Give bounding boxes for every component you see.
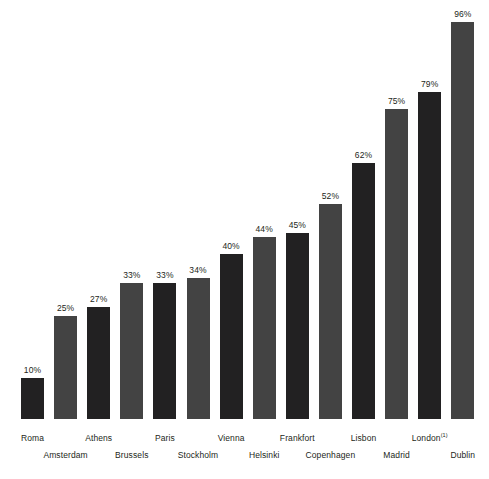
bar[interactable] [120, 283, 143, 419]
bar[interactable] [54, 316, 77, 419]
bar-group: 52% [319, 0, 342, 419]
category-label-text: Amsterdam [43, 450, 87, 460]
category-label-text: Copenhagen [306, 450, 356, 460]
footnote-marker: (1) [441, 432, 448, 438]
bar[interactable] [286, 233, 309, 419]
category-axis: RomaAmsterdamAthensBrusselsParisStockhol… [0, 419, 489, 479]
bar-value-label: 96% [454, 9, 471, 19]
bar[interactable] [352, 163, 375, 419]
category-label-text: Athens [85, 433, 112, 443]
category-label-text: Dublin [450, 450, 475, 460]
bar-group: 25% [54, 0, 77, 419]
bar-value-label: 75% [388, 96, 405, 106]
category-label-text: Stockholm [178, 450, 219, 460]
bar-value-label: 40% [222, 241, 239, 251]
category-label-helsinki: Helsinki [249, 450, 280, 460]
category-label-dublin: Dublin [450, 450, 475, 460]
bar-group: 75% [385, 0, 408, 419]
bar[interactable] [153, 283, 176, 419]
bar-value-label: 34% [189, 265, 206, 275]
bar[interactable] [87, 307, 110, 419]
bar-value-label: 25% [57, 303, 74, 313]
category-label-roma: Roma [21, 433, 44, 443]
category-label-text: Brussels [115, 450, 148, 460]
bar-group: 45% [286, 0, 309, 419]
category-label-athens: Athens [85, 433, 112, 443]
category-label-paris: Paris [155, 433, 175, 443]
category-label-text: Vienna [218, 433, 245, 443]
category-label-text: Helsinki [249, 450, 280, 460]
bar-value-label: 33% [123, 270, 140, 280]
bar-group: 34% [187, 0, 210, 419]
bar-chart: 10%25%27%33%33%34%40%44%45%52%62%75%79%9… [0, 0, 489, 479]
bar-value-label: 33% [156, 270, 173, 280]
bar-value-label: 62% [355, 150, 372, 160]
bar-group: 10% [21, 0, 44, 419]
category-label-frankfort: Frankfort [280, 433, 315, 443]
category-label-text: Frankfort [280, 433, 315, 443]
bar[interactable] [451, 22, 474, 419]
bar-group: 27% [87, 0, 110, 419]
bar-group: 33% [153, 0, 176, 419]
bar-group: 96% [451, 0, 474, 419]
category-label-brussels: Brussels [115, 450, 148, 460]
bar-group: 40% [220, 0, 243, 419]
bar-group: 79% [418, 0, 441, 419]
category-label-text: Madrid [383, 450, 410, 460]
category-label-madrid: Madrid [383, 450, 410, 460]
category-label-vienna: Vienna [218, 433, 245, 443]
bar-value-label: 79% [421, 79, 438, 89]
bar-group: 33% [120, 0, 143, 419]
bar-value-label: 27% [90, 294, 107, 304]
bar-group: 62% [352, 0, 375, 419]
category-label-stockholm: Stockholm [178, 450, 219, 460]
bar-value-label: 45% [289, 220, 306, 230]
category-label-lisbon: Lisbon [351, 433, 377, 443]
category-label-text: Paris [155, 433, 175, 443]
bar[interactable] [253, 237, 276, 419]
bar[interactable] [21, 378, 44, 419]
bar[interactable] [385, 109, 408, 419]
bar-group: 44% [253, 0, 276, 419]
bar-value-label: 52% [322, 191, 339, 201]
plot-area: 10%25%27%33%33%34%40%44%45%52%62%75%79%9… [0, 0, 489, 419]
bar[interactable] [220, 254, 243, 419]
category-label-amsterdam: Amsterdam [43, 450, 87, 460]
category-label-text: Lisbon [351, 433, 377, 443]
bar[interactable] [319, 204, 342, 419]
category-label-london: London(1) [412, 433, 448, 443]
category-label-text: Roma [21, 433, 44, 443]
bar[interactable] [187, 278, 210, 419]
category-label-text: London [412, 433, 441, 443]
bar-value-label: 44% [256, 224, 273, 234]
category-label-copenhagen: Copenhagen [306, 450, 356, 460]
bar-value-label: 10% [24, 365, 41, 375]
bar[interactable] [418, 92, 441, 419]
